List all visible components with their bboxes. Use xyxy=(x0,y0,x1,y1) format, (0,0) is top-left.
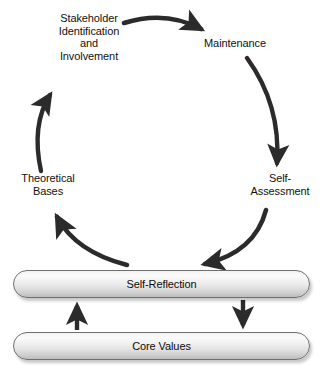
process-box-self-reflection: Self-Reflection xyxy=(13,270,310,298)
connector-theoretical-bases-to-stakeholder xyxy=(38,95,50,171)
cycle-node-maintenance: Maintenance xyxy=(180,37,290,50)
process-box-self-reflection-label: Self-Reflection xyxy=(126,278,196,290)
connector-self-assessment-to-self-reflection xyxy=(205,210,266,264)
connector-self-reflection-to-theoretical-bases xyxy=(57,217,127,265)
process-box-core-values: Core Values xyxy=(13,332,310,360)
process-box-core-values-label: Core Values xyxy=(132,340,191,352)
diagram-canvas: Stakeholder Identification and Involveme… xyxy=(0,0,324,380)
connector-maintenance-to-self-assessment xyxy=(247,58,277,163)
cycle-node-theoretical-bases: Theoretical Bases xyxy=(5,172,91,197)
cycle-node-stakeholder: Stakeholder Identification and Involveme… xyxy=(30,12,148,62)
cycle-node-self-assessment: Self- Assessment xyxy=(243,172,317,197)
